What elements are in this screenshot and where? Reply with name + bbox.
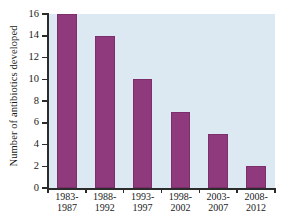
y-axis-tick — [42, 35, 48, 37]
x-axis-category-label: 1988-1992 — [86, 192, 124, 213]
x-axis-category-label-line: 1993- — [124, 192, 162, 203]
y-axis-tick-label: 2 — [13, 161, 39, 172]
x-axis-category-label-line: 2002 — [162, 203, 200, 214]
x-axis-category-label: 1993-1997 — [124, 192, 162, 213]
y-axis-tick — [42, 144, 48, 146]
y-axis-tick-label: 4 — [13, 139, 39, 150]
bar — [171, 112, 191, 188]
x-axis-category-label-line: 2003- — [199, 192, 237, 203]
y-axis-tick — [42, 166, 48, 168]
x-axis-category-label: 1998-2002 — [162, 192, 200, 213]
y-axis-tick — [42, 100, 48, 102]
y-axis-tick-label: 14 — [13, 30, 39, 41]
y-axis-tick — [42, 57, 48, 59]
bar — [95, 36, 115, 188]
y-axis-tick — [42, 79, 48, 81]
x-axis-category-label-line: 2012 — [237, 203, 275, 214]
x-axis-category-label-line: 1998- — [162, 192, 200, 203]
y-axis-tick-label: 10 — [13, 74, 39, 85]
x-axis-category-label-line: 1988- — [86, 192, 124, 203]
y-axis-tick-label: 6 — [13, 117, 39, 128]
x-axis-category-label-line: 1997 — [124, 203, 162, 214]
x-axis-category-label-line: 1992 — [86, 203, 124, 214]
bar — [208, 134, 228, 188]
plot-area — [48, 14, 275, 188]
x-axis-category-label-line: 2007 — [199, 203, 237, 214]
y-axis-tick — [42, 13, 48, 15]
x-axis-category-label: 2003-2007 — [199, 192, 237, 213]
x-axis-category-label-line: 1987 — [48, 203, 86, 214]
bar-chart-figure: Number of antibiotics developed 02468101… — [0, 0, 291, 223]
y-axis-tick — [42, 122, 48, 124]
y-axis-tick-label: 16 — [13, 9, 39, 20]
x-axis-category-label-line: 2008- — [237, 192, 275, 203]
x-axis-category-label: 2008-2012 — [237, 192, 275, 213]
bar — [133, 79, 153, 188]
y-axis-tick-label: 12 — [13, 52, 39, 63]
bar — [57, 14, 77, 188]
y-axis-tick-label: 8 — [13, 96, 39, 107]
bar — [246, 166, 266, 188]
x-axis-category-label: 1983-1987 — [48, 192, 86, 213]
x-axis-category-label-line: 1983- — [48, 192, 86, 203]
y-axis-tick-label: 0 — [13, 183, 39, 194]
